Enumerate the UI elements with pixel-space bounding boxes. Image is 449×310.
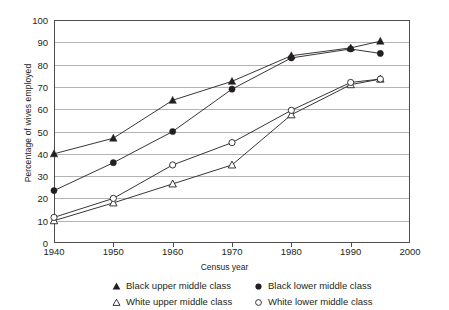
x-tick-mark — [351, 243, 352, 247]
x-tick-label: 2000 — [399, 246, 420, 257]
x-tick-label: 1970 — [221, 246, 242, 257]
x-tick-mark — [113, 243, 114, 247]
legend-label: White lower middle class — [268, 296, 373, 307]
chart-legend: Black upper middle classWhite upper midd… — [0, 278, 449, 310]
legend-item: White upper middle class — [110, 296, 232, 308]
x-tick-mark — [232, 243, 233, 247]
legend-item: Black lower middle class — [252, 280, 371, 292]
x-tick-label: 1980 — [281, 246, 302, 257]
x-tick-mark — [291, 243, 292, 247]
filled-circle-icon — [252, 280, 265, 292]
open-triangle-icon — [110, 296, 123, 308]
filled-triangle-icon — [110, 280, 123, 292]
open-circle-icon — [252, 296, 265, 308]
x-tick-label: 1990 — [340, 246, 361, 257]
x-tick-label: 1960 — [162, 246, 183, 257]
chart-container: Percentage of wives employed 01020304050… — [0, 0, 449, 310]
x-tick-label: 1940 — [43, 246, 64, 257]
x-tick-mark — [173, 243, 174, 247]
legend-item: White lower middle class — [252, 296, 373, 308]
x-axis-title: Census year — [0, 262, 449, 272]
legend-label: Black upper middle class — [126, 280, 231, 291]
legend-label: White upper middle class — [126, 296, 232, 307]
x-tick-label: 1950 — [103, 246, 124, 257]
legend-label: Black lower middle class — [268, 280, 371, 291]
legend-item: Black upper middle class — [110, 280, 231, 292]
